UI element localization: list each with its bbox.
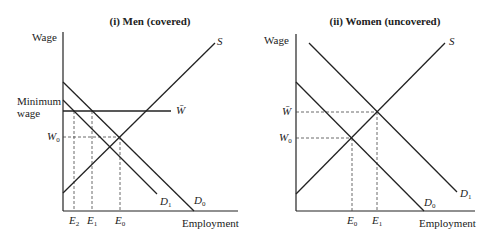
panel-title: (i) Men (covered) bbox=[109, 15, 190, 28]
supply-curve bbox=[296, 43, 445, 194]
panel-men-covered: (i) Men (covered) Wage S W̄ D1 D0 Minimu… bbox=[17, 15, 239, 229]
x-axis-label: Employment bbox=[419, 217, 476, 229]
y-axis-label: Wage bbox=[264, 34, 289, 46]
e0-label: E0 bbox=[114, 214, 126, 228]
d0-label: D0 bbox=[423, 196, 436, 210]
demand-curve-d0 bbox=[63, 82, 194, 211]
supply-label: S bbox=[449, 35, 455, 47]
d1-label: D1 bbox=[159, 195, 172, 209]
e1-label: E1 bbox=[86, 214, 98, 228]
panel-title: (ii) Women (uncovered) bbox=[330, 15, 441, 28]
e1-label: E1 bbox=[371, 214, 383, 228]
demand-curve-d0 bbox=[296, 82, 424, 211]
e0-label: E0 bbox=[346, 214, 358, 228]
panel-women-uncovered: (ii) Women (uncovered) Wage S D1 D0 W̄ W… bbox=[264, 15, 476, 229]
wbar-label: W̄ bbox=[176, 104, 186, 116]
supply-curve bbox=[63, 43, 215, 193]
minimum-wage-label: Minimum bbox=[17, 95, 61, 107]
e2-label: E2 bbox=[68, 214, 80, 228]
x-axis-label: Employment bbox=[182, 217, 239, 229]
supply-label: S bbox=[217, 35, 223, 47]
w0-label: W0 bbox=[279, 131, 292, 145]
minimum-wage-label-2: wage bbox=[17, 107, 40, 119]
d0-label: D0 bbox=[193, 194, 206, 208]
labor-market-diagram: (i) Men (covered) Wage S W̄ D1 D0 Minimu… bbox=[0, 0, 494, 241]
wbar-label: W̄ bbox=[282, 105, 292, 117]
w0-label: W0 bbox=[47, 130, 60, 144]
y-axis-label: Wage bbox=[32, 31, 57, 43]
d1-label: D1 bbox=[459, 187, 472, 201]
